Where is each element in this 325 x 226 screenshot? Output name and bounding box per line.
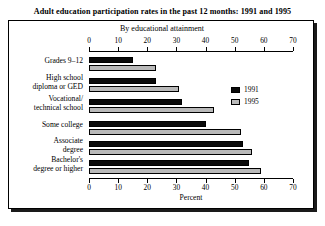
legend: 1991 1995 — [231, 85, 259, 109]
legend-item-1995: 1995 — [231, 97, 259, 107]
axis-tick-label: 70 — [281, 36, 305, 45]
axis-tick — [235, 47, 236, 51]
bar-1991 — [89, 121, 206, 127]
axis-tick — [206, 47, 207, 51]
axis-tick-label: 10 — [106, 183, 130, 192]
bar-1991 — [89, 160, 249, 166]
bar-1991 — [89, 57, 133, 63]
axis-tick — [176, 47, 177, 51]
legend-swatch-icon-1991 — [231, 87, 240, 93]
bar-1995 — [89, 107, 214, 113]
top-axis-line — [89, 51, 293, 52]
legend-swatch-icon-1995 — [231, 99, 240, 105]
axis-tick-label: 40 — [194, 36, 218, 45]
category-label: Some college — [0, 121, 83, 130]
bar-1991 — [89, 99, 182, 105]
bar-1995 — [89, 65, 156, 71]
axis-tick-label: 30 — [164, 36, 188, 45]
chart-frame: By educational attainment 01020304050607… — [8, 20, 314, 209]
axis-tick-label: 0 — [77, 183, 101, 192]
axis-tick-label: 60 — [252, 36, 276, 45]
legend-item-1991: 1991 — [231, 85, 259, 95]
axis-tick-label: 20 — [135, 36, 159, 45]
legend-label-1995: 1995 — [244, 97, 259, 107]
axis-tick-label: 60 — [252, 183, 276, 192]
axis-tick-label: 70 — [281, 183, 305, 192]
axis-tick-label: 30 — [164, 183, 188, 192]
chart-figure: Adult education participation rates in t… — [0, 0, 325, 226]
axis-tick-label: 20 — [135, 183, 159, 192]
axis-tick — [264, 47, 265, 51]
category-label: Bachelor'sdegree or higher — [0, 156, 83, 173]
bar-1991 — [89, 141, 243, 147]
category-label: Grades 9–12 — [0, 57, 83, 66]
bar-1991 — [89, 78, 156, 84]
x-axis-label: Percent — [89, 193, 293, 202]
bar-1995 — [89, 149, 252, 155]
bar-1995 — [89, 168, 261, 174]
legend-label-1991: 1991 — [244, 85, 259, 95]
axis-tick-label: 50 — [223, 36, 247, 45]
bar-1995 — [89, 129, 241, 135]
category-label: Vocational/technical school — [0, 95, 83, 112]
plot-area: 010203040506070 010203040506070 Grades 9… — [9, 21, 315, 210]
bar-1995 — [89, 86, 179, 92]
axis-tick — [293, 47, 294, 51]
axis-tick — [89, 47, 90, 51]
chart-title: Adult education participation rates in t… — [0, 7, 325, 16]
category-label: High schooldiploma or GED — [0, 74, 83, 91]
axis-tick-label: 40 — [194, 183, 218, 192]
bottom-axis-line — [89, 178, 293, 179]
category-label: Associatedegree — [0, 137, 83, 154]
axis-tick — [147, 47, 148, 51]
axis-tick-label: 10 — [106, 36, 130, 45]
axis-tick-label: 50 — [223, 183, 247, 192]
axis-tick-label: 0 — [77, 36, 101, 45]
axis-tick — [118, 47, 119, 51]
